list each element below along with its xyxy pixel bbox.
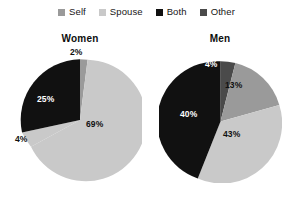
legend-item-self: Self: [58, 7, 86, 17]
pie-label-women-both: 25%: [37, 94, 54, 104]
legend-item-label: Spouse: [110, 7, 143, 17]
legend-item-spouse: Spouse: [99, 7, 143, 17]
square-swatch-icon: [99, 9, 106, 16]
pie-label-women-self-sliver: 2%: [70, 47, 83, 57]
pie-chart-men: [159, 60, 282, 183]
pie-label-men-other: 4%: [205, 59, 218, 69]
chart-title-men: Men: [180, 33, 260, 44]
legend-item-label: Other: [211, 7, 235, 17]
square-swatch-icon: [156, 9, 163, 16]
pie-label-men-self: 13%: [225, 80, 242, 90]
pie-label-women-spouse: 69%: [86, 119, 103, 129]
square-swatch-icon: [58, 9, 65, 16]
chart-legend: Self Spouse Both Other: [0, 7, 293, 17]
pie-chart-women-svg: [18, 58, 142, 182]
legend-item-both: Both: [156, 7, 187, 17]
pie-chart-women: [18, 58, 142, 182]
square-swatch-icon: [200, 9, 207, 16]
pie-label-women-self-small: 4%: [15, 134, 28, 144]
legend-item-label: Both: [167, 7, 187, 17]
chart-title-women: Women: [40, 33, 120, 44]
pie-label-men-both: 40%: [180, 109, 197, 119]
pie-chart-men-svg: [159, 60, 282, 183]
legend-item-label: Self: [69, 7, 86, 17]
pie-label-men-spouse: 43%: [223, 129, 240, 139]
legend-item-other: Other: [200, 7, 235, 17]
